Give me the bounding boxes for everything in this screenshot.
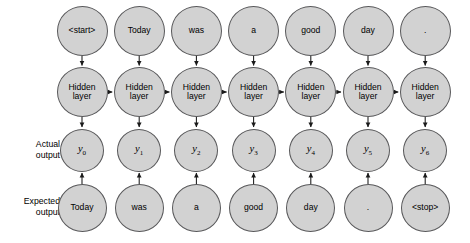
hidden-label-line1-4: Hidden — [297, 83, 324, 92]
expected-output-node-label-1: was — [132, 203, 147, 212]
hidden-label-line1-3: Hidden — [240, 83, 267, 92]
y-symbol-1: y — [135, 143, 140, 154]
hidden-layer-node-4: Hiddenlayer — [285, 67, 336, 117]
actual-output-node-0: y0 — [60, 129, 104, 172]
hidden-label-line2-5: layer — [354, 92, 381, 101]
expected-output-label-line1: Expected — [2, 196, 60, 207]
y-symbol-5: y — [364, 143, 369, 154]
hidden-layer-node-label-3: Hiddenlayer — [240, 83, 267, 102]
y-subscript-4: 4 — [311, 149, 315, 157]
expected-output-node-label-0: Today — [71, 203, 94, 212]
input-node-label-3: a — [251, 26, 256, 35]
row-label-expected-output: Expected output — [2, 196, 60, 218]
expected-output-node-label-5: . — [367, 203, 369, 212]
y-symbol-3: y — [250, 143, 255, 154]
hidden-label-line1-1: Hidden — [126, 83, 153, 92]
input-node-5: day — [343, 6, 394, 56]
rnn-diagram: Actual output Expected output <start>Tod… — [0, 0, 470, 243]
input-node-label-5: day — [361, 26, 375, 35]
y-symbol-0: y — [78, 143, 83, 154]
actual-output-node-6: y6 — [403, 129, 447, 172]
input-node-label-2: was — [189, 26, 204, 35]
y-subscript-1: 1 — [140, 149, 144, 157]
actual-output-node-label-3: y3 — [250, 143, 258, 158]
hidden-layer-node-2: Hiddenlayer — [171, 67, 222, 117]
input-node-label-4: good — [301, 26, 320, 35]
hidden-layer-node-label-6: Hiddenlayer — [412, 83, 439, 102]
hidden-label-line2-4: layer — [297, 92, 324, 101]
hidden-layer-node-label-2: Hiddenlayer — [183, 83, 210, 102]
hidden-label-line1-5: Hidden — [354, 83, 381, 92]
actual-output-node-label-4: y4 — [307, 143, 315, 158]
hidden-layer-node-0: Hiddenlayer — [57, 67, 108, 117]
expected-output-node-label-6: <stop> — [412, 203, 438, 212]
input-node-label-6: . — [424, 26, 426, 35]
expected-output-node-3: good — [229, 184, 278, 232]
y-subscript-5: 5 — [369, 149, 373, 157]
expected-output-node-label-3: good — [244, 203, 263, 212]
y-subscript-3: 3 — [254, 149, 258, 157]
y-subscript-0: 0 — [83, 149, 87, 157]
expected-output-node-label-2: a — [194, 203, 199, 212]
row-label-actual-output: Actual output — [4, 139, 60, 161]
hidden-label-line1-6: Hidden — [412, 83, 439, 92]
y-symbol-2: y — [192, 143, 197, 154]
hidden-layer-node-label-5: Hiddenlayer — [354, 83, 381, 102]
actual-output-node-label-6: y6 — [421, 143, 429, 158]
hidden-layer-node-3: Hiddenlayer — [228, 67, 279, 117]
hidden-label-line2-0: layer — [68, 92, 95, 101]
input-node-3: a — [228, 6, 279, 56]
actual-output-node-label-1: y1 — [135, 143, 143, 158]
hidden-layer-node-1: Hiddenlayer — [114, 67, 165, 117]
actual-output-node-3: y3 — [232, 129, 276, 172]
hidden-layer-node-label-1: Hiddenlayer — [126, 83, 153, 102]
expected-output-node-label-4: day — [304, 203, 318, 212]
input-node-6: . — [400, 6, 451, 56]
input-node-2: was — [171, 6, 222, 56]
expected-output-node-4: day — [286, 184, 335, 232]
input-node-0: <start> — [57, 6, 108, 56]
hidden-layer-node-label-0: Hiddenlayer — [68, 83, 95, 102]
actual-output-node-2: y2 — [174, 129, 218, 172]
expected-output-node-2: a — [172, 184, 221, 232]
input-node-label-1: Today — [128, 26, 151, 35]
input-node-4: good — [285, 6, 336, 56]
y-subscript-6: 6 — [426, 149, 430, 157]
hidden-label-line1-0: Hidden — [68, 83, 95, 92]
hidden-label-line2-6: layer — [412, 92, 439, 101]
expected-output-label-line2: output — [2, 207, 60, 218]
hidden-label-line2-1: layer — [126, 92, 153, 101]
actual-output-label-line1: Actual — [4, 139, 60, 150]
actual-output-node-5: y5 — [346, 129, 390, 172]
actual-output-node-label-2: y2 — [192, 143, 200, 158]
expected-output-node-0: Today — [58, 184, 107, 232]
input-node-1: Today — [114, 6, 165, 56]
y-symbol-6: y — [421, 143, 426, 154]
hidden-layer-node-5: Hiddenlayer — [343, 67, 394, 117]
hidden-label-line2-2: layer — [183, 92, 210, 101]
input-node-label-0: <start> — [69, 26, 96, 35]
hidden-layer-node-label-4: Hiddenlayer — [297, 83, 324, 102]
hidden-label-line1-2: Hidden — [183, 83, 210, 92]
expected-output-node-5: . — [344, 184, 393, 232]
actual-output-node-4: y4 — [289, 129, 333, 172]
actual-output-node-label-5: y5 — [364, 143, 372, 158]
actual-output-node-1: y1 — [117, 129, 161, 172]
hidden-layer-node-6: Hiddenlayer — [400, 67, 451, 117]
expected-output-node-6: <stop> — [401, 184, 450, 232]
actual-output-label-line2: output — [4, 150, 60, 161]
y-symbol-4: y — [307, 143, 312, 154]
y-subscript-2: 2 — [197, 149, 201, 157]
actual-output-node-label-0: y0 — [78, 143, 86, 158]
hidden-label-line2-3: layer — [240, 92, 267, 101]
expected-output-node-1: was — [115, 184, 164, 232]
